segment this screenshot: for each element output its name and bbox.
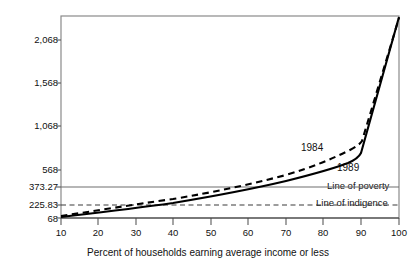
chart-container: 2,068 1,568 1,068 568 373.27 225.83 68 1… [0,0,416,266]
x-axis-ticks [61,218,399,225]
plot-area [0,0,416,266]
series-path-1984 [61,18,399,216]
y-axis-ticks [56,40,61,218]
